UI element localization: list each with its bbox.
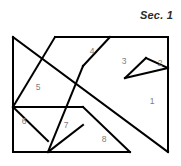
piece-6-label: 6 <box>22 116 27 126</box>
piece-1-face[interactable] <box>125 68 168 152</box>
piece-7-label: 7 <box>64 120 69 130</box>
figure-page: Sec. 1 12345678 <box>0 0 181 166</box>
piece-5-label: 5 <box>36 82 41 92</box>
piece-4-face[interactable] <box>55 37 110 66</box>
piece-8-label: 8 <box>102 134 107 144</box>
tangram-square-diagram: 12345678 <box>0 0 181 166</box>
piece-4-label: 4 <box>90 46 95 56</box>
piece-1-label: 1 <box>150 96 155 106</box>
piece-2-label: 2 <box>158 58 163 68</box>
piece-3-label: 3 <box>122 56 127 66</box>
